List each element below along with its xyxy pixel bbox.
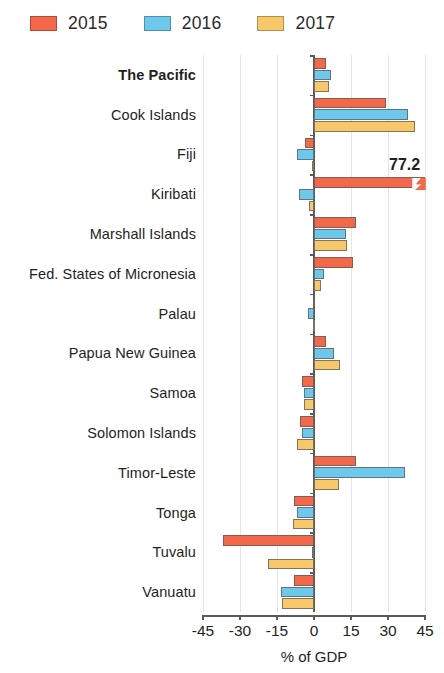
bar-2015 bbox=[314, 217, 356, 228]
bars-area: 77.2 bbox=[203, 55, 425, 612]
bar-2015 bbox=[294, 496, 314, 507]
category-label: Palau bbox=[0, 307, 196, 322]
bar-2017 bbox=[314, 479, 339, 490]
category-tick bbox=[310, 214, 314, 216]
bar-2017 bbox=[314, 360, 340, 371]
x-axis-tick-label: -30 bbox=[229, 622, 251, 640]
bar-2015 bbox=[294, 575, 314, 586]
bar-2016 bbox=[314, 348, 334, 359]
category-tick bbox=[310, 453, 314, 455]
gridline bbox=[203, 55, 204, 612]
plot-area: The PacificCook IslandsFijiKiribatiMarsh… bbox=[0, 55, 444, 615]
bar-2016 bbox=[308, 308, 314, 319]
bar-2016 bbox=[314, 229, 346, 240]
category-label: Tonga bbox=[0, 506, 196, 521]
bar-2016 bbox=[304, 388, 314, 399]
x-axis-tick-label: 45 bbox=[416, 622, 433, 640]
bar-2016 bbox=[314, 70, 331, 81]
category-tick bbox=[310, 95, 314, 97]
bar-2017 bbox=[309, 201, 314, 212]
category-label: Fed. States of Micronesia bbox=[0, 267, 196, 282]
bar-2017 bbox=[268, 559, 314, 570]
category-label: Cook Islands bbox=[0, 108, 196, 123]
bar-2016 bbox=[302, 428, 314, 439]
value-label: 77.2 bbox=[389, 156, 420, 174]
x-axis-tick bbox=[313, 615, 315, 620]
bar-2015 bbox=[313, 297, 315, 308]
bar-2016 bbox=[314, 269, 324, 280]
bar-2017 bbox=[293, 519, 314, 530]
bar-2015 bbox=[314, 58, 326, 69]
bar-2015 bbox=[314, 177, 425, 188]
x-axis-tick bbox=[239, 615, 241, 620]
category-label: Timor-Leste bbox=[0, 466, 196, 481]
legend-item-2017: 2017 bbox=[257, 13, 335, 34]
gridline bbox=[351, 55, 352, 612]
bar-2015 bbox=[314, 336, 326, 347]
bar-2017 bbox=[314, 81, 329, 92]
bar-2017 bbox=[297, 439, 314, 450]
x-axis-tick-label: 15 bbox=[342, 622, 359, 640]
x-axis-tick-labels: -45-30-150153045 bbox=[203, 622, 425, 644]
bar-2017 bbox=[314, 280, 321, 291]
bar-2015 bbox=[314, 98, 386, 109]
category-label: Vanuatu bbox=[0, 585, 196, 600]
bar-2015 bbox=[314, 257, 353, 268]
bar-2015 bbox=[302, 376, 314, 387]
bar-2016 bbox=[314, 467, 405, 478]
legend-swatch-2016-icon bbox=[144, 16, 171, 31]
bar-2015 bbox=[223, 535, 314, 546]
bar-2016 bbox=[314, 109, 408, 120]
bar-2016 bbox=[297, 149, 314, 160]
bar-2017 bbox=[282, 598, 314, 609]
category-tick bbox=[310, 254, 314, 256]
x-axis-tick bbox=[424, 615, 426, 620]
legend-item-2015: 2015 bbox=[30, 13, 108, 34]
legend-label-2015: 2015 bbox=[68, 13, 108, 34]
category-label: The Pacific bbox=[0, 68, 196, 83]
bar-2015 bbox=[300, 416, 314, 427]
category-label: Kiribati bbox=[0, 187, 196, 202]
bar-2016 bbox=[297, 507, 314, 518]
category-axis-labels: The PacificCook IslandsFijiKiribatiMarsh… bbox=[0, 55, 196, 612]
x-axis-tick bbox=[276, 615, 278, 620]
category-label: Solomon Islands bbox=[0, 426, 196, 441]
bar-2017 bbox=[312, 161, 314, 172]
x-axis-ticks bbox=[203, 615, 425, 620]
gridline bbox=[388, 55, 389, 612]
x-axis-title: % of GDP bbox=[203, 648, 425, 665]
category-tick bbox=[310, 334, 314, 336]
gridline bbox=[277, 55, 278, 612]
legend-item-2016: 2016 bbox=[144, 13, 222, 34]
bar-2016 bbox=[281, 587, 314, 598]
bar-2017 bbox=[314, 121, 415, 132]
category-label: Papua New Guinea bbox=[0, 346, 196, 361]
grouped-bar-chart: 2015 2016 2017 The PacificCook IslandsFi… bbox=[0, 0, 444, 673]
legend-label-2016: 2016 bbox=[182, 13, 222, 34]
category-tick bbox=[310, 572, 314, 574]
chart-legend: 2015 2016 2017 bbox=[30, 10, 335, 36]
category-tick bbox=[310, 532, 314, 534]
bar-2017 bbox=[314, 240, 347, 251]
bar-2016 bbox=[312, 547, 314, 558]
gridline bbox=[240, 55, 241, 612]
legend-swatch-2017-icon bbox=[257, 16, 284, 31]
x-axis-tick-label: 30 bbox=[379, 622, 396, 640]
x-axis-tick-label: -15 bbox=[266, 622, 288, 640]
x-axis-tick bbox=[387, 615, 389, 620]
category-tick bbox=[310, 135, 314, 137]
category-tick bbox=[310, 373, 314, 375]
category-label: Tuvalu bbox=[0, 545, 196, 560]
legend-swatch-2015-icon bbox=[30, 16, 57, 31]
legend-label-2017: 2017 bbox=[295, 13, 335, 34]
bar-2017 bbox=[304, 399, 314, 410]
gridline bbox=[425, 55, 426, 612]
x-axis-tick-label: -45 bbox=[192, 622, 214, 640]
x-axis-tick bbox=[350, 615, 352, 620]
x-axis-tick bbox=[202, 615, 204, 620]
category-tick bbox=[310, 294, 314, 296]
category-tick bbox=[310, 493, 314, 495]
bar-2017 bbox=[313, 320, 315, 331]
category-tick bbox=[310, 174, 314, 176]
x-axis-tick-label: 0 bbox=[310, 622, 319, 640]
